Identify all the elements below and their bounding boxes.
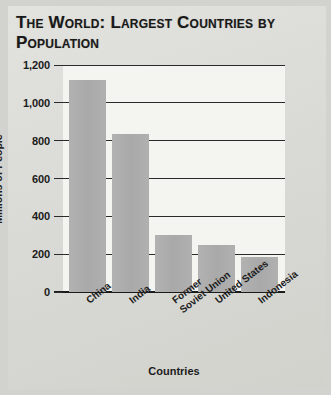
- y-tick-mark: [54, 178, 63, 179]
- y-tick-label: 200: [4, 248, 50, 260]
- x-axis-label: Countries: [63, 365, 285, 377]
- y-tick-mark: [54, 216, 63, 217]
- bar-chart: Millions of People 02004006008001,0001,2…: [0, 0, 331, 395]
- y-tick-label: 0: [4, 286, 50, 298]
- y-tick-mark: [54, 102, 63, 103]
- bar: [112, 134, 149, 292]
- y-tick-mark: [54, 292, 63, 293]
- gridline: [63, 65, 285, 66]
- y-tick-mark: [54, 140, 63, 141]
- chart-page: The World: Largest Countries by Populati…: [0, 0, 331, 395]
- bar: [69, 80, 106, 292]
- y-tick-label: 1,000: [4, 97, 50, 109]
- y-tick-label: 800: [4, 135, 50, 147]
- y-tick-mark: [54, 254, 63, 255]
- plot-area: 02004006008001,0001,200 ChinaIndiaFormer…: [63, 65, 285, 292]
- y-tick-label: 400: [4, 210, 50, 222]
- y-tick-label: 1,200: [4, 59, 50, 71]
- y-tick-mark: [54, 65, 63, 66]
- y-tick-label: 600: [4, 173, 50, 185]
